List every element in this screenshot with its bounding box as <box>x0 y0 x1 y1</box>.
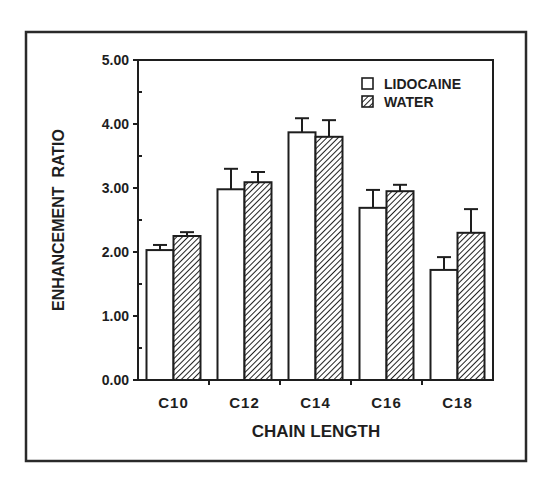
x-tick-label: C12 <box>229 394 260 411</box>
bar-lidocaine-c14 <box>289 132 316 380</box>
y-tick-label: 5.00 <box>102 52 129 68</box>
legend: LIDOCAINEWATER <box>362 76 461 110</box>
legend-swatch-water <box>362 96 373 107</box>
bar-lidocaine-c12 <box>218 189 245 380</box>
plot-area <box>138 60 493 380</box>
y-tick-label: 3.00 <box>102 180 129 196</box>
bar-lidocaine-c10 <box>147 250 174 380</box>
legend-label-lidocaine: LIDOCAINE <box>384 76 461 92</box>
bar-water-c12 <box>245 182 272 380</box>
y-axis: 0.001.002.003.004.005.00 <box>102 52 142 388</box>
bar-water-c14 <box>316 137 343 380</box>
x-tick-label: C14 <box>300 394 331 411</box>
x-tick-label: C16 <box>371 394 402 411</box>
legend-swatch-lidocaine <box>362 78 373 89</box>
x-axis-title: CHAIN LENGTH <box>252 422 380 441</box>
y-axis-title: ENHANCEMENT RATIO <box>50 129 67 311</box>
y-tick-label: 4.00 <box>102 116 129 132</box>
legend-label-water: WATER <box>384 94 434 110</box>
chart: 0.001.002.003.004.005.00 C10C12C14C16C18… <box>0 0 539 484</box>
bar-lidocaine-c18 <box>431 270 458 380</box>
x-axis: C10C12C14C16C18 <box>158 380 473 411</box>
bar-water-c10 <box>174 236 201 380</box>
y-tick-label: 1.00 <box>102 308 129 324</box>
x-tick-label: C10 <box>158 394 189 411</box>
bar-lidocaine-c16 <box>360 208 387 380</box>
bar-water-c16 <box>387 191 414 380</box>
x-tick-label: C18 <box>442 394 473 411</box>
y-tick-label: 0.00 <box>102 372 129 388</box>
bar-water-c18 <box>458 233 485 380</box>
y-tick-label: 2.00 <box>102 244 129 260</box>
